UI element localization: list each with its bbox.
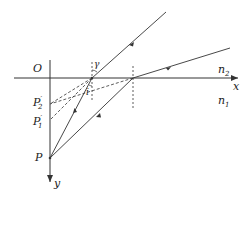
angle-i-arc (89, 85, 92, 86)
arrow-incident-1 (73, 108, 77, 113)
refracted-ray-2 (133, 48, 230, 78)
y-axis-label: y (54, 178, 60, 189)
point-A (91, 77, 93, 79)
point-P (49, 157, 52, 160)
angle-gamma-arc (92, 70, 97, 72)
P1-prime-label: P′1 (33, 115, 42, 130)
n1-label: n1 (218, 95, 230, 109)
arrow-incident-2 (96, 113, 101, 118)
i-label: i (86, 88, 89, 97)
x-axis-label: x (233, 81, 239, 92)
virtual-ray-1 (50, 78, 92, 120)
origin-label: O (33, 63, 42, 74)
n2-label: n2 (218, 64, 230, 78)
gamma-label: γ (94, 60, 99, 69)
P-label: P (35, 152, 42, 163)
P2-prime-label: P′2 (33, 96, 42, 111)
incident-ray-2 (50, 78, 133, 158)
virtual-ray-2 (50, 78, 133, 104)
